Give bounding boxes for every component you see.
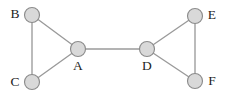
node-b[interactable]: [25, 8, 40, 23]
edge-d-f: [147, 49, 195, 81]
edge-c-a: [32, 49, 78, 82]
node-label-c: C: [10, 75, 19, 89]
node-label-b: B: [10, 7, 19, 21]
node-label-e: E: [208, 8, 216, 22]
node-label-f: F: [208, 74, 216, 88]
graph-canvas: [0, 0, 228, 96]
node-d[interactable]: [140, 42, 155, 57]
node-e[interactable]: [188, 9, 203, 24]
node-f[interactable]: [188, 74, 203, 89]
node-c[interactable]: [25, 75, 40, 90]
edge-d-e: [147, 16, 195, 49]
edge-b-a: [32, 15, 78, 49]
graph-figure: BCADEF: [0, 0, 228, 96]
node-a[interactable]: [71, 42, 86, 57]
node-label-a: A: [73, 59, 83, 73]
node-label-d: D: [142, 59, 152, 73]
edges-group: [32, 15, 195, 82]
